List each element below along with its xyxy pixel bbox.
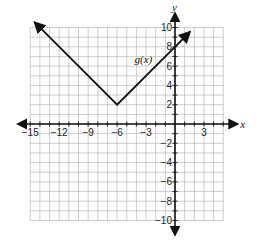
x-tick-label: −9 [82, 127, 94, 138]
y-tick-label: −10 [155, 215, 172, 226]
x-axis-label: x [239, 118, 245, 130]
x-tick-label: −3 [140, 127, 152, 138]
y-tick-label: 6 [166, 61, 172, 72]
y-tick-label: −4 [161, 157, 173, 168]
y-tick-label: 10 [161, 22, 173, 33]
x-tick-label: −15 [22, 127, 39, 138]
x-tick-label: −12 [51, 127, 68, 138]
y-axis-label: y [171, 1, 177, 13]
y-tick-label: 4 [166, 80, 172, 91]
coordinate-plane: −15−12−9−6−33108642−2−4−6−8−10 x y g(x) [0, 0, 257, 240]
y-tick-label: −2 [161, 138, 173, 149]
function-label: g(x) [134, 53, 152, 66]
y-tick-label: −8 [161, 196, 173, 207]
y-tick-label: 2 [166, 99, 172, 110]
y-tick-label: −6 [161, 176, 173, 187]
x-tick-label: 3 [201, 127, 207, 138]
x-tick-label: −6 [111, 127, 123, 138]
